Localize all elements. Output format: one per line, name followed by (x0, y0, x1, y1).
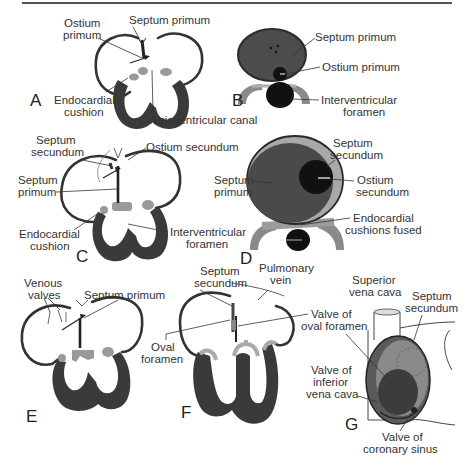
panel-b (238, 29, 310, 108)
label-f-pulmonary-vein-2: vein (270, 274, 291, 286)
label-g-superior-vena-cava: Superior (352, 274, 396, 286)
label-g-superior-vena-cava-2: vena cava (349, 286, 402, 298)
label-a-ostium-primum: Ostium (64, 17, 100, 29)
label-b-ostium-primum: Ostium primum (322, 61, 400, 73)
label-e-septum-primum: Septum primum (84, 289, 165, 301)
diagram-canvas: Ostium primum Septum primum A Endocardia… (0, 0, 465, 467)
septation-figure: Ostium primum Septum primum A Endocardia… (0, 0, 465, 467)
label-g-valve-coronary-sinus-2: coronary sinus (363, 443, 438, 455)
label-b-interventricular-foramen: Interventricular (321, 94, 397, 106)
label-d-ostium-secundum-2: secundum (356, 186, 409, 198)
label-d-endocardial-cushions-fused-2: cushions fused (345, 224, 422, 236)
label-g-septum-secundum: Septum (412, 290, 452, 302)
label-a-endocardial-cushion-2: cushion (64, 106, 104, 118)
label-g-septum-secundum-2: secundum (405, 302, 458, 314)
leader-f-oval-foramen (166, 320, 230, 340)
label-b-septum-primum: Septum primum (315, 31, 396, 43)
label-f-septum-secundum: Septum (200, 265, 240, 277)
label-b-interventricular-foramen-2: foramen (343, 106, 385, 118)
panel-f (180, 293, 294, 424)
label-c-interventricular-foramen: Interventricular (170, 226, 246, 238)
label-e-venous-valves: Venous (24, 277, 63, 289)
label-f-valve-oval-foramen: Valve of (311, 308, 353, 320)
label-c-interventricular-foramen-2: foramen (186, 238, 228, 250)
panel-c (61, 148, 180, 261)
label-f-septum-secundum-2: secundum (194, 277, 247, 289)
label-a-endocardial-cushion: Endocardial (54, 94, 115, 106)
label-c-septum-secundum: Septum (36, 134, 76, 146)
label-c-septum-secundum-2: secundum (31, 146, 84, 158)
leader-g-septum-secundum (414, 315, 422, 340)
leader-c-septum-secundum (82, 160, 112, 166)
label-a-ostium-primum-2: primum (63, 29, 101, 41)
label-g-valve-coronary-sinus: Valve of (382, 431, 424, 443)
label-c-endocardial-cushion: Endocardial (19, 228, 80, 240)
label-g-valve-inferior-vena-cava-3: vena cava (306, 388, 359, 400)
label-c-septum-primum: Septum (18, 174, 58, 186)
label-f-pulmonary-vein: Pulmonary (259, 262, 314, 274)
label-c-septum-primum-2: primum (18, 186, 56, 198)
label-f-oval-foramen-2: foramen (141, 353, 183, 365)
label-d-septum-secundum: Septum (333, 137, 373, 149)
leader-a-ostium-primum (98, 38, 142, 58)
panel-letter-e: E (26, 407, 37, 426)
panel-g (366, 309, 455, 425)
panel-letter-f: F (181, 403, 191, 422)
panel-letter-a: A (30, 91, 42, 110)
label-f-valve-oval-foramen-2: oval foramen (301, 320, 367, 332)
leader-e-septum-primum (84, 300, 118, 318)
label-d-septum-primum-2: primum (214, 186, 252, 198)
label-a-septum-primum: Septum primum (129, 14, 210, 26)
label-c-ostium-secundum: Ostium secundum (146, 141, 239, 153)
label-d-endocardial-cushions-fused: Endocardial (353, 212, 414, 224)
leader-f-valve-oval-foramen (238, 314, 308, 326)
panel-letter-d: D (240, 249, 252, 268)
leader-b-interventricular-foramen (290, 99, 319, 100)
panel-e (22, 297, 142, 411)
label-d-septum-secundum-2: secundum (330, 149, 383, 161)
label-d-septum-primum: Septum (214, 174, 254, 186)
panel-letter-b: B (232, 91, 243, 110)
label-f-oval-foramen: Oval (151, 341, 175, 353)
label-a-atrioventricular-canal: Atrioventricular canal (150, 114, 257, 126)
label-g-valve-inferior-vena-cava-2: inferior (313, 376, 348, 388)
label-c-endocardial-cushion-2: cushion (30, 240, 70, 252)
panel-letter-c: C (76, 247, 88, 266)
label-g-valve-inferior-vena-cava: Valve of (311, 364, 353, 376)
leader-c-septum-primum (56, 189, 117, 192)
panel-letter-g: G (345, 415, 358, 434)
label-d-ostium-secundum: Ostium (357, 174, 393, 186)
